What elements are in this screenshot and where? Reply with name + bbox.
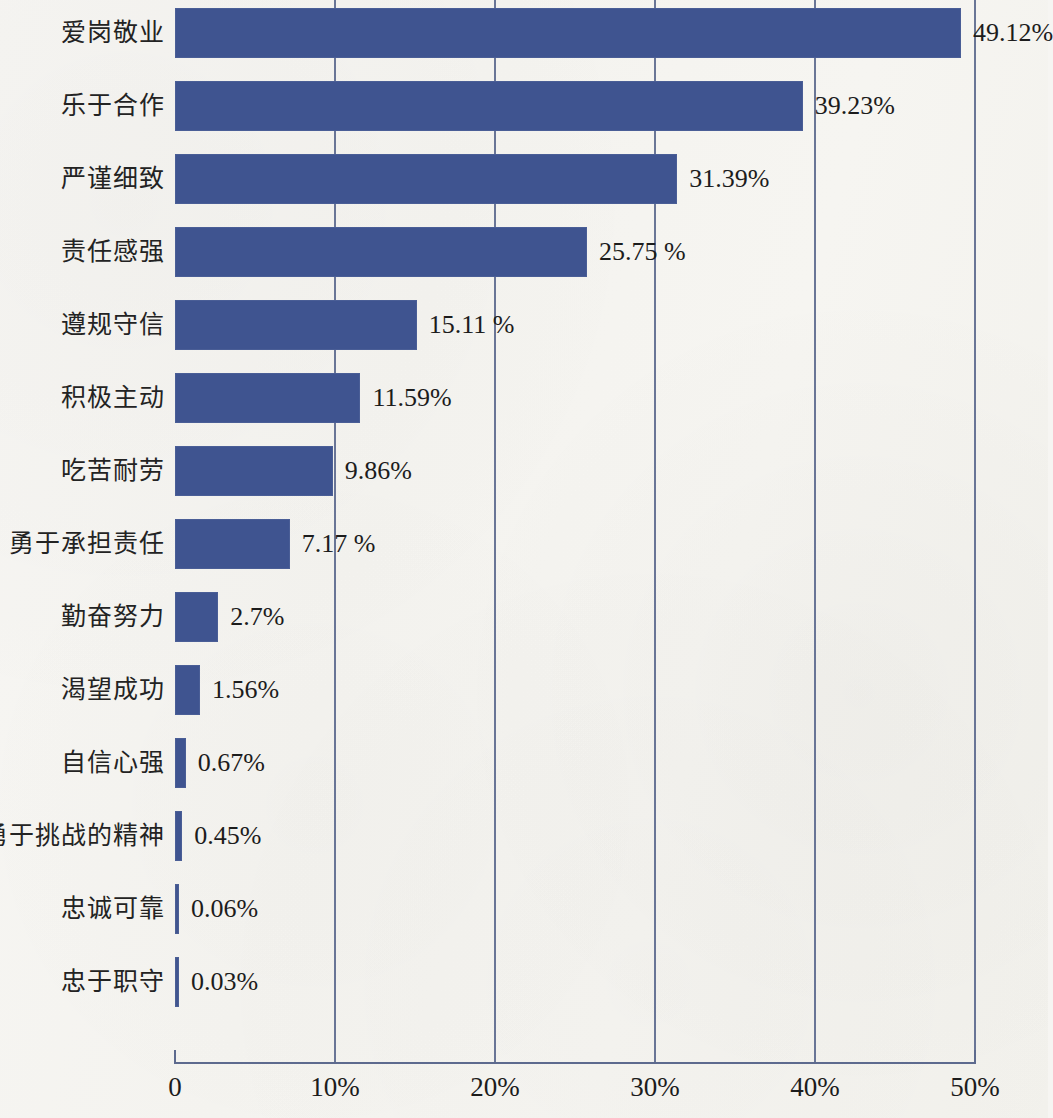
category-label: 忠诚可靠 [61,884,165,934]
category-label: 爱岗敬业 [61,8,165,58]
value-label: 39.23% [815,81,895,131]
bar [175,8,961,58]
bar-row: 严谨细致31.39% [0,154,1048,204]
bar-row: 乐于合作39.23% [0,81,1048,131]
value-label: 9.86% [345,446,412,496]
category-label: 勇于承担责任 [9,519,165,569]
bar [175,227,587,277]
bar-row: 渴望成功1.56% [0,665,1048,715]
bar [175,884,179,934]
bar-row: 爱岗敬业49.12% [0,8,1048,58]
category-label: 勤奋努力 [61,592,165,642]
value-label: 0.03% [191,957,258,1007]
bar [175,300,417,350]
value-label: 15.11 % [429,300,515,350]
axis-cap-end [974,1050,976,1064]
x-tick-label: 10% [290,1072,380,1103]
x-tick-label: 40% [770,1072,860,1103]
bar [175,373,360,423]
x-axis-line [175,1062,975,1064]
bar-row: 勤奋努力2.7% [0,592,1048,642]
bar-row: 忠于职守0.03% [0,957,1048,1007]
bar [175,811,182,861]
bar-row: 自信心强0.67% [0,738,1048,788]
category-label: 渴望成功 [61,665,165,715]
category-label: 吃苦耐劳 [61,446,165,496]
x-tick-label: 30% [610,1072,700,1103]
category-label: 遵规守信 [61,300,165,350]
value-label: 1.56% [212,665,279,715]
value-label: 11.59% [372,373,451,423]
value-label: 49.12% [973,8,1053,58]
x-tick-label: 0 [130,1072,220,1103]
category-label: 乐于合作 [61,81,165,131]
value-label: 0.45% [194,811,261,861]
value-label: 0.06% [191,884,258,934]
bar-row: 遵规守信15.11 % [0,300,1048,350]
bar-row: 积极主动11.59% [0,373,1048,423]
value-label: 0.67% [198,738,265,788]
bar-row: 勇于承担责任7.17 % [0,519,1048,569]
x-tick-label: 50% [930,1072,1020,1103]
category-label: 积极主动 [61,373,165,423]
bar [175,154,677,204]
value-label: 2.7% [230,592,284,642]
bar-row: 责任感强25.75 % [0,227,1048,277]
bar [175,446,333,496]
category-label: 严谨细致 [61,154,165,204]
bar [175,519,290,569]
category-label: 自信心强 [61,738,165,788]
x-tick-label: 20% [450,1072,540,1103]
value-label: 7.17 % [302,519,376,569]
bar [175,738,186,788]
bar [175,665,200,715]
bar [175,957,179,1007]
bar-row: 忠诚可靠0.06% [0,884,1048,934]
category-label: 勇于挑战的精神 [0,811,165,861]
bar-row: 吃苦耐劳9.86% [0,446,1048,496]
bar [175,592,218,642]
value-label: 31.39% [689,154,769,204]
category-label: 责任感强 [61,227,165,277]
category-label: 忠于职守 [61,957,165,1007]
bar-row: 勇于挑战的精神0.45% [0,811,1048,861]
bar [175,81,803,131]
axis-cap-start [174,1050,176,1064]
value-label: 25.75 % [599,227,686,277]
